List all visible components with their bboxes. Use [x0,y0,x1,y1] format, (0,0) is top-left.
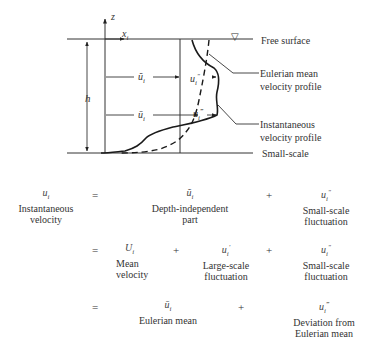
row1-lhs-symbol: ui [14,187,78,203]
row2-term2-desc-1: Large-scale [196,260,256,271]
row1-lhs: ui Instantaneous velocity [14,187,78,225]
row2-term1: Ui Mean velocity [116,242,160,280]
row3-term2-desc-2: Eulerian mean [286,328,362,339]
deviation-label: ui‴ [193,106,203,124]
x-axis-label: xi [122,28,128,44]
depth-label: h [85,93,91,104]
row3-term2-symbol: ui‴ [286,299,362,317]
free-surface-icon: ▽ [231,31,239,42]
z-axis-label: z [111,11,115,22]
instantaneous-callout-line2: velocity profile [260,132,321,143]
row2-term2: ui′ Large-scale fluctuation [196,242,256,282]
instantaneous-callout-leader [218,105,259,124]
row3-term1: ūi Eulerian mean [128,299,208,326]
row2-term2-symbol: ui′ [196,242,256,260]
row1-term1: ũi Depth-independent part [120,187,260,225]
row3-term2-desc-1: Deviation from [286,317,362,328]
row3-term1-desc-1: Eulerian mean [128,315,208,326]
eulerian-mean-profile-curve [120,40,209,153]
row2-term3-desc-1: Small-scale [296,260,356,271]
row3-term2: ui‴ Deviation from Eulerian mean [286,299,362,339]
small-scale-fluctuation-label: ui″ [190,71,200,89]
row1-lhs-desc-2: velocity [14,214,78,225]
row1-term2-symbol: ui″ [296,187,356,205]
row2-term1-symbol: Ui [116,242,160,258]
depth-independent-label: ũi [138,71,145,87]
row1-lhs-desc-1: Instantaneous [14,203,78,214]
row1-plus: + [266,189,272,201]
instantaneous-profile-curve [101,40,219,153]
row3-equals: = [92,301,98,313]
row1-term1-desc-2: part [120,214,260,225]
row1-term2-desc-2: fluctuation [296,216,356,227]
row1-term2: ui″ Small-scale fluctuation [296,187,356,227]
row2-plus1: + [173,244,179,256]
row2-term1-desc-1: Mean [116,258,160,269]
row1-term2-desc-1: Small-scale [296,205,356,216]
eulerian-callout-line2: velocity profile [260,81,321,92]
row2-term3-symbol: ui″ [296,242,356,260]
row2-term2-desc-2: fluctuation [196,271,256,282]
row2-term3: ui″ Small-scale fluctuation [296,242,356,282]
row1-term1-symbol: ũi [120,187,260,203]
free-surface-callout: Free surface [261,35,310,46]
eulerian-callout-line1: Eulerian mean [260,68,318,79]
row2-plus2: + [266,244,272,256]
instantaneous-callout-line1: Instantaneous [260,119,315,130]
row3-plus: + [238,301,244,313]
row1-equals: = [92,189,98,201]
small-scale-callout: Small-scale [262,148,309,159]
row2-equals: = [92,244,98,256]
row1-term1-desc-1: Depth-independent [120,203,260,214]
eulerian-mean-label: ūi [138,109,145,125]
row3-term1-symbol: ūi [128,299,208,315]
row2-term3-desc-2: fluctuation [296,271,356,282]
row2-term1-desc-2: velocity [116,269,160,280]
